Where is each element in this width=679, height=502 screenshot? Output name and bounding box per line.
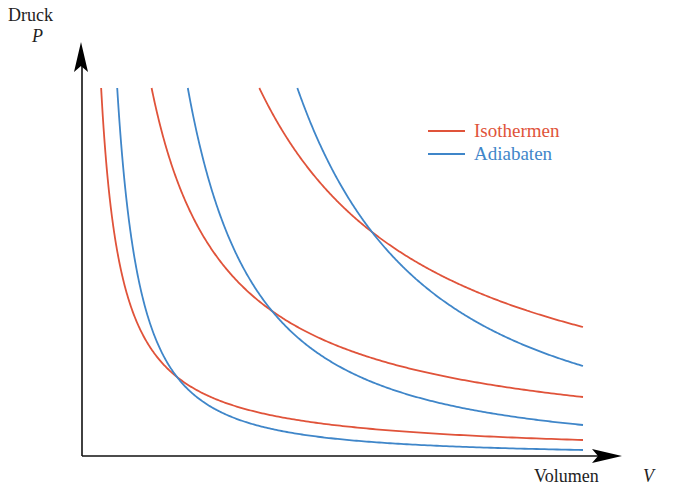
- legend-swatch-isotherm: [428, 130, 465, 132]
- legend-item-isothermen: Isothermen: [428, 120, 559, 142]
- y-axis-label: Druck: [8, 5, 53, 26]
- x-axis-symbol: V: [643, 466, 654, 487]
- legend-swatch-adiabat: [428, 153, 465, 155]
- legend-label: Isothermen: [474, 120, 559, 142]
- legend-item-adiabaten: Adiabaten: [428, 143, 552, 165]
- x-axis-label: Volumen: [534, 466, 599, 487]
- y-axis-symbol: P: [32, 26, 43, 47]
- pv-diagram: [0, 0, 679, 502]
- legend-label: Adiabaten: [474, 143, 552, 165]
- y-axis-arrow-icon: [74, 42, 88, 72]
